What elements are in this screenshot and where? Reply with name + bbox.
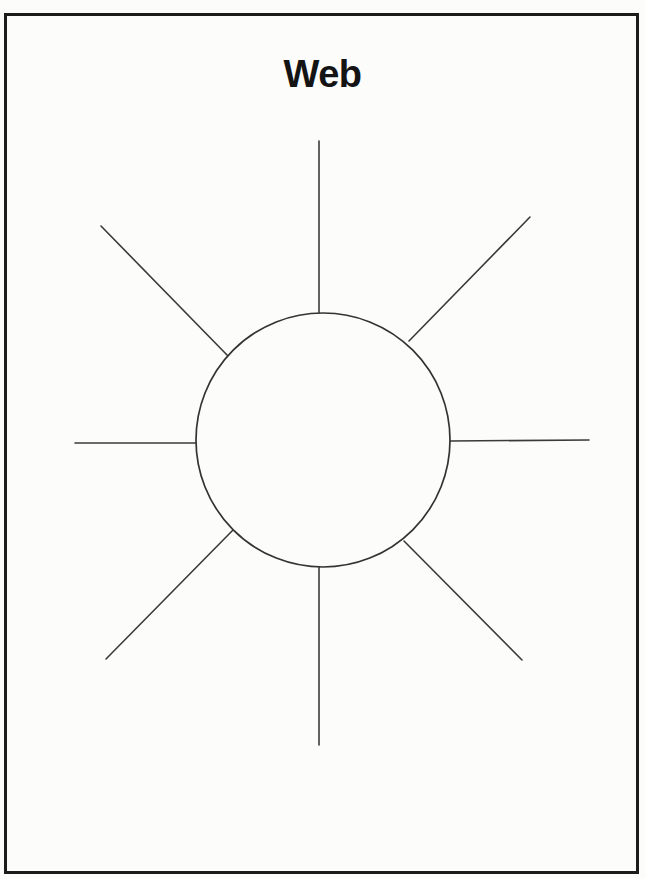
spoke-line-upper-right	[409, 217, 530, 341]
center-circle	[196, 313, 450, 567]
page-title: Web	[0, 54, 645, 96]
spoke-line-lower-left	[106, 530, 233, 659]
spoke-line-lower-right	[404, 541, 522, 660]
spoke-line-upper-left	[101, 226, 228, 356]
spoke-line-right	[450, 440, 589, 441]
web-diagram	[0, 0, 645, 879]
worksheet-page: Web	[0, 0, 645, 879]
